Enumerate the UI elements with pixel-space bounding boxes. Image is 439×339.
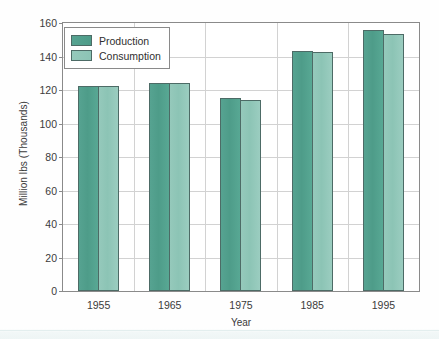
bar-consumption-1985 (312, 52, 333, 291)
bar-group: 1975 (205, 23, 276, 291)
bar-consumption-1965 (169, 83, 190, 291)
legend-swatch-production-icon (71, 35, 92, 46)
bar-group: 1995 (348, 23, 419, 291)
y-tick-label: 0 (51, 285, 57, 297)
bar-production-1975 (220, 98, 241, 291)
bar-group: 1985 (277, 23, 348, 291)
bar-production-1995 (363, 30, 384, 291)
bar-pair (277, 23, 348, 291)
x-tick-label: 1985 (277, 299, 348, 311)
y-tick-label: 40 (45, 218, 57, 230)
x-tick-label: 1955 (63, 299, 134, 311)
bar-pair (205, 23, 276, 291)
y-tick-label: 60 (45, 185, 57, 197)
x-tick-label: 1995 (348, 299, 419, 311)
legend-swatch-consumption-icon (71, 50, 92, 61)
y-tick-label: 120 (39, 84, 57, 96)
bar-consumption-1975 (240, 100, 261, 291)
y-axis-title: Million lbs (Thousands) (18, 54, 29, 254)
x-tick-label: 1975 (205, 299, 276, 311)
x-axis-title: Year (62, 317, 420, 328)
bar-pair (348, 23, 419, 291)
y-tick-label: 160 (39, 17, 57, 29)
y-tick-label: 140 (39, 51, 57, 63)
y-tick-label: 100 (39, 118, 57, 130)
bar-consumption-1995 (383, 34, 404, 291)
chart-legend: Production Consumption (64, 27, 170, 69)
legend-label-production: Production (99, 35, 149, 47)
scan-artifact-line (0, 330, 439, 331)
bar-production-1955 (78, 86, 99, 291)
y-tick-label: 20 (45, 252, 57, 264)
bar-chart-figure: Million lbs (Thousands) 0204060801001201… (0, 0, 439, 339)
bar-production-1985 (292, 51, 313, 291)
y-tick-mark (59, 291, 63, 292)
legend-label-consumption: Consumption (99, 50, 161, 62)
legend-item-consumption: Consumption (71, 48, 161, 63)
bar-consumption-1955 (98, 86, 119, 291)
x-tick-label: 1965 (134, 299, 205, 311)
bar-production-1965 (149, 83, 170, 291)
y-tick-label: 80 (45, 151, 57, 163)
legend-item-production: Production (71, 33, 161, 48)
